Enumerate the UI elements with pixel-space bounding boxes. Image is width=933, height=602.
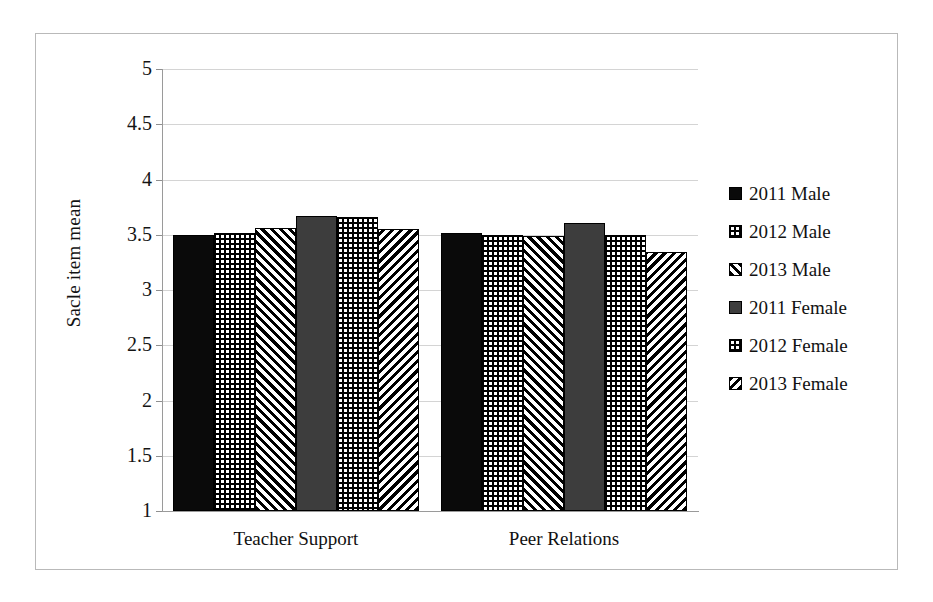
legend-item[interactable]: 2013 Male bbox=[729, 250, 894, 288]
y-axis-tick-label-wrap: 4 bbox=[100, 169, 152, 189]
bar[interactable] bbox=[646, 252, 687, 511]
bar-group bbox=[441, 69, 687, 511]
y-axis-tick-label-wrap: 3 bbox=[100, 279, 152, 299]
legend-swatch-icon bbox=[729, 187, 742, 200]
y-axis-tick-label: 3 bbox=[112, 279, 152, 299]
bar[interactable] bbox=[482, 235, 523, 511]
bar[interactable] bbox=[441, 233, 482, 511]
y-axis-tick-label: 2.5 bbox=[112, 334, 152, 354]
legend-swatch-icon bbox=[729, 377, 742, 390]
y-axis-tick-label: 5 bbox=[112, 58, 152, 78]
legend-item[interactable]: 2012 Female bbox=[729, 326, 894, 364]
bar[interactable] bbox=[378, 229, 419, 511]
y-axis-title: Sacle item mean bbox=[63, 153, 85, 373]
x-axis-category-label: Teacher Support bbox=[162, 528, 430, 550]
y-axis-tick-label: 2 bbox=[112, 390, 152, 410]
chart-figure: 54.543.532.521.51 Sacle item mean Teache… bbox=[35, 33, 898, 570]
plot-area bbox=[162, 69, 698, 511]
legend-item-label: 2011 Female bbox=[749, 298, 847, 317]
legend-item-label: 2013 Male bbox=[749, 260, 831, 279]
chart-legend: 2011 Male2012 Male2013 Male2011 Female20… bbox=[729, 174, 894, 402]
x-axis-line bbox=[162, 511, 699, 512]
y-axis-tick-label-wrap: 1 bbox=[100, 500, 152, 520]
y-axis-tick-label-wrap: 1.5 bbox=[100, 445, 152, 465]
legend-swatch-icon bbox=[729, 301, 742, 314]
x-axis-category-label: Peer Relations bbox=[430, 528, 698, 550]
y-axis-tick-label-wrap: 3.5 bbox=[100, 224, 152, 244]
bar[interactable] bbox=[605, 235, 646, 511]
y-axis-tick-label-wrap: 2 bbox=[100, 390, 152, 410]
legend-swatch-icon bbox=[729, 225, 742, 238]
bar[interactable] bbox=[255, 228, 296, 511]
legend-item-label: 2012 Male bbox=[749, 222, 831, 241]
y-axis-tick-label: 3.5 bbox=[112, 224, 152, 244]
y-axis-tick-label-wrap: 2.5 bbox=[100, 334, 152, 354]
legend-item[interactable]: 2012 Male bbox=[729, 212, 894, 250]
bar[interactable] bbox=[296, 216, 337, 511]
legend-item[interactable]: 2011 Female bbox=[729, 288, 894, 326]
bar-group bbox=[173, 69, 419, 511]
legend-item-label: 2013 Female bbox=[749, 374, 848, 393]
bar[interactable] bbox=[564, 223, 605, 511]
legend-item-label: 2012 Female bbox=[749, 336, 848, 355]
y-axis-tick-label: 4.5 bbox=[112, 113, 152, 133]
bar[interactable] bbox=[523, 236, 564, 511]
y-axis-tick-label: 1 bbox=[112, 500, 152, 520]
legend-swatch-icon bbox=[729, 263, 742, 276]
legend-swatch-icon bbox=[729, 339, 742, 352]
legend-item-label: 2011 Male bbox=[749, 184, 830, 203]
y-axis-tick-label: 1.5 bbox=[112, 445, 152, 465]
y-axis-tick-label-wrap: 5 bbox=[100, 58, 152, 78]
bar[interactable] bbox=[337, 217, 378, 511]
y-axis-tick-label-wrap: 4.5 bbox=[100, 113, 152, 133]
legend-item[interactable]: 2013 Female bbox=[729, 364, 894, 402]
legend-item[interactable]: 2011 Male bbox=[729, 174, 894, 212]
y-axis-tick-label: 4 bbox=[112, 169, 152, 189]
bar[interactable] bbox=[214, 233, 255, 511]
bar[interactable] bbox=[173, 235, 214, 511]
